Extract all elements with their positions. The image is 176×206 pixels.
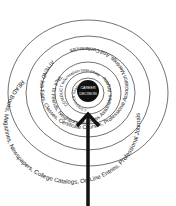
career-decision-diagram: CAREER DECISION CONSIDER Shadowing CONDU…: [0, 0, 176, 206]
center-label-line2: DECISION: [79, 92, 97, 96]
center-label-line1: CAREER: [81, 86, 96, 90]
